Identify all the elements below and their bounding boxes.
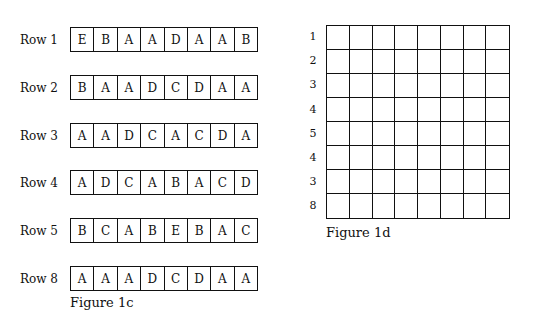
grid-cell [350,74,373,98]
grid-row-label: 5 [306,122,320,146]
sequence-cell: D [210,124,233,147]
grid-cell [464,194,487,218]
grid-cell [441,74,464,98]
grid-cell [441,50,464,74]
grid-cell [441,170,464,194]
grid-cell [418,146,441,170]
grid-cell [486,194,509,218]
grid-cell [486,170,509,194]
row-label: Row 4 [20,170,68,196]
sequence-cell: A [164,124,187,147]
empty-grid [326,25,510,219]
sequence-cell: A [117,28,140,51]
sequence-cell: A [234,124,257,147]
sequence-cell: A [234,76,257,99]
grid-cell [395,50,418,74]
grid-cell [418,26,441,50]
sequence-row: BCABEBAC [70,218,258,243]
sequence-cell: D [93,171,116,194]
sequence-cell: A [117,76,140,99]
row-label: Row 2 [20,75,68,101]
grid-cell [395,194,418,218]
grid-cell [418,170,441,194]
row-label: Row 1 [20,27,68,53]
sequence-cell: A [210,219,233,242]
grid-cell [464,74,487,98]
sequence-cell: A [93,267,116,290]
grid-cell [327,146,350,170]
grid-cell [350,146,373,170]
grid-cell [441,122,464,146]
grid-cell [373,50,396,74]
sequence-cell: A [210,76,233,99]
grid-cell [395,98,418,122]
sequence-cell: C [210,171,233,194]
sequence-cell: A [71,267,93,290]
grid-cell [327,170,350,194]
sequence-cell: C [93,219,116,242]
grid-cell [464,26,487,50]
grid-cell [327,50,350,74]
sequence-cell: C [140,124,163,147]
grid-cell [373,146,396,170]
sequence-cell: B [187,219,210,242]
figure-caption: Figure 1c [70,295,133,310]
sequence-cell: A [71,124,93,147]
grid-cell [418,74,441,98]
sequence-cell: C [117,171,140,194]
grid-cell [327,74,350,98]
grid-row-label: 4 [306,98,320,122]
sequence-row: AADCACDA [70,123,258,148]
sequence-cell: A [234,267,257,290]
grid-cell [486,26,509,50]
grid-row-label: 3 [306,170,320,194]
grid-cell [327,194,350,218]
grid-cell [350,194,373,218]
grid-row-label: 1 [306,25,320,49]
grid-cell [395,74,418,98]
figure-caption: Figure 1d [326,225,391,240]
sequence-cell: B [140,219,163,242]
sequence-cell: A [93,76,116,99]
grid-cell [373,74,396,98]
row-label: Row 3 [20,123,68,149]
grid-cell [373,98,396,122]
grid-cell [486,98,509,122]
grid-row-label: 3 [306,73,320,97]
grid-cell [373,170,396,194]
sequence-cell: E [71,28,93,51]
sequence-cell: A [187,28,210,51]
grid-cell [486,50,509,74]
sequence-cell: E [164,219,187,242]
row-label: Row 8 [20,266,68,292]
sequence-row: AAADCDAA [70,266,258,291]
grid-cell [373,26,396,50]
grid-cell [327,98,350,122]
grid-cell [486,74,509,98]
grid-cell [441,98,464,122]
sequence-cell: B [71,219,93,242]
grid-cell [418,50,441,74]
grid-cell [327,26,350,50]
sequence-cell: B [71,76,93,99]
sequence-cell: C [164,267,187,290]
sequence-cell: D [117,124,140,147]
grid-cell [418,122,441,146]
sequence-cell: A [210,267,233,290]
sequence-cell: A [93,124,116,147]
sequence-cell: A [71,171,93,194]
sequence-row: EBAADAAB [70,27,258,52]
sequence-cell: A [117,219,140,242]
grid-cell [373,194,396,218]
grid-cell [350,98,373,122]
grid-cell [464,50,487,74]
sequence-cell: C [187,124,210,147]
grid-cell [464,146,487,170]
grid-cell [350,122,373,146]
grid-cell [373,122,396,146]
grid-cell [441,26,464,50]
grid-cell [486,122,509,146]
grid-cell [464,98,487,122]
sequence-cell: A [140,28,163,51]
grid-cell [350,170,373,194]
